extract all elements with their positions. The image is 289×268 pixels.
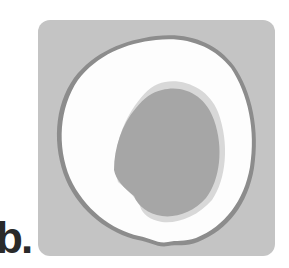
fruit-illustration — [38, 20, 275, 256]
panel-label: b. — [0, 216, 31, 260]
image-panel — [38, 20, 275, 256]
